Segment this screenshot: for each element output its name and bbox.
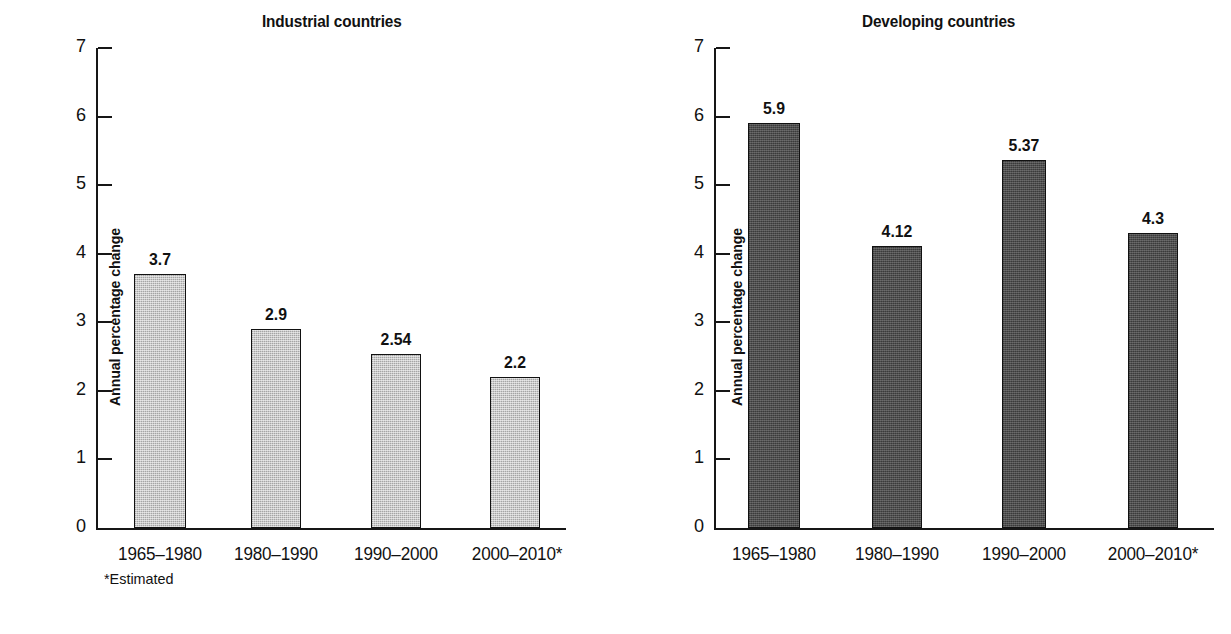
chart-panel-industrial-countries: Industrial countries Annual percentage c…: [0, 0, 620, 634]
chart-panel-developing-countries: Developing countries Annual percentage c…: [620, 0, 1231, 634]
y-tick-3-industrial: 3: [98, 321, 112, 323]
bar-developing-2000-2010[interactable]: 4.3: [1128, 233, 1178, 528]
x-tick-label-developing-0: 1965–1980: [732, 544, 816, 565]
y-tick-4-developing: 4: [716, 253, 730, 255]
y-tick-label-4-industrial: 4: [58, 242, 87, 262]
y-tick-label-7-industrial: 7: [58, 36, 87, 56]
x-axis-baseline-developing: [714, 528, 1214, 530]
figure-bar-charts: Industrial countries Annual percentage c…: [0, 0, 1231, 634]
x-tick-label-developing-3: 2000–2010*: [1108, 544, 1198, 565]
bar-developing-1990-2000[interactable]: 5.37: [1002, 160, 1046, 528]
y-tick-6-industrial: 6: [98, 116, 112, 118]
y-tick-4-industrial: 4: [98, 253, 112, 255]
bar-value-developing-1980-1990: 4.12: [882, 222, 913, 242]
y-axis-spine-developing: [714, 48, 716, 528]
bar-developing-1980-1990[interactable]: 4.12: [872, 246, 922, 529]
y-tick-label-3-developing: 3: [676, 310, 705, 330]
y-tick-label-1-developing: 1: [676, 447, 705, 467]
y-axis-spine-industrial: [96, 48, 98, 528]
bar-industrial-1990-2000[interactable]: 2.54: [371, 354, 421, 528]
bar-developing-1965-1980[interactable]: 5.9: [748, 123, 800, 528]
y-tick-label-7-developing: 7: [676, 36, 705, 56]
bar-value-industrial-2000-2010: 2.2: [504, 353, 526, 373]
x-axis-baseline-industrial: [96, 528, 566, 530]
y-tick-label-6-developing: 6: [676, 105, 705, 125]
bar-value-industrial-1990-2000: 2.54: [381, 330, 412, 350]
x-tick-label-industrial-3: 2000–2010*: [472, 544, 562, 565]
y-tick-label-1-industrial: 1: [58, 447, 87, 467]
x-tick-label-industrial-2: 1990–2000: [354, 544, 438, 565]
y-tick-5-industrial: 5: [98, 184, 112, 186]
x-tick-label-industrial-1: 1980–1990: [234, 544, 318, 565]
y-tick-label-0-industrial: 0: [58, 516, 87, 536]
chart-title-industrial: Industrial countries: [262, 12, 402, 31]
y-tick-label-2-developing: 2: [676, 379, 705, 399]
bar-industrial-1965-1980[interactable]: 3.7: [134, 274, 186, 528]
y-tick-2-industrial: 2: [98, 390, 112, 392]
y-tick-label-0-developing: 0: [676, 516, 705, 536]
y-tick-label-6-industrial: 6: [58, 105, 87, 125]
bar-industrial-1980-1990[interactable]: 2.9: [251, 329, 301, 528]
x-tick-label-developing-1: 1980–1990: [855, 544, 939, 565]
y-tick-3-developing: 3: [716, 321, 730, 323]
y-tick-6-developing: 6: [716, 116, 730, 118]
bar-value-industrial-1965-1980: 3.7: [149, 250, 171, 270]
y-tick-label-3-industrial: 3: [58, 310, 87, 330]
y-tick-label-5-developing: 5: [676, 173, 705, 193]
y-tick-label-5-industrial: 5: [58, 173, 87, 193]
y-tick-2-developing: 2: [716, 390, 730, 392]
y-tick-1-developing: 1: [716, 458, 730, 460]
plot-area-industrial: 7 6 5 4 3 2 1 0: [96, 48, 566, 528]
y-tick-1-industrial: 1: [98, 458, 112, 460]
y-tick-7-developing: 7: [716, 47, 730, 49]
bar-value-industrial-1980-1990: 2.9: [265, 305, 287, 325]
bar-value-developing-1990-2000: 5.37: [1009, 136, 1040, 156]
bar-value-developing-1965-1980: 5.9: [763, 99, 785, 119]
x-tick-label-industrial-0: 1965–1980: [118, 544, 202, 565]
plot-area-developing: 7 6 5 4 3 2 1 0 5.9: [714, 48, 1214, 528]
bar-value-developing-2000-2010: 4.3: [1142, 209, 1164, 229]
chart-title-developing: Developing countries: [862, 12, 1015, 31]
x-tick-label-developing-2: 1990–2000: [982, 544, 1066, 565]
bar-industrial-2000-2010[interactable]: 2.2: [490, 377, 540, 528]
footnote-estimated: *Estimated: [104, 570, 174, 587]
y-tick-label-2-industrial: 2: [58, 379, 87, 399]
y-tick-5-developing: 5: [716, 184, 730, 186]
y-tick-label-4-developing: 4: [676, 242, 705, 262]
y-tick-7-industrial: 7: [98, 47, 112, 49]
